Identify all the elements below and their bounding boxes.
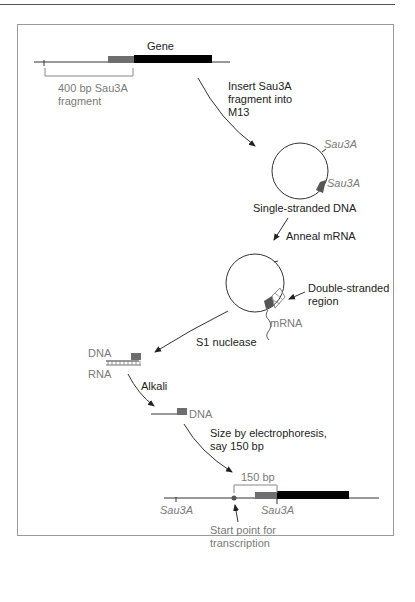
insert-label-line2: fragment into bbox=[228, 93, 292, 106]
sau3a-right-label: Sau3A bbox=[261, 504, 294, 517]
start-point-label-line2: transcription bbox=[210, 537, 270, 550]
rna-label-hybrid: RNA bbox=[88, 368, 111, 381]
gene-map-top bbox=[34, 55, 230, 76]
single-stranded-dna-label: Single-stranded DNA bbox=[253, 202, 356, 215]
sau3a-left-label: Sau3A bbox=[160, 504, 193, 517]
sau3a-site-bottom-label: Sau3A bbox=[327, 177, 360, 190]
fragment-label-line1: 400 bp Sau3A bbox=[58, 82, 128, 95]
fragment-label-line2: fragment bbox=[58, 95, 101, 108]
dna-label-single: DNA bbox=[189, 408, 212, 421]
start-point-label-line1: Start point for bbox=[210, 524, 276, 537]
dna-rna-hybrid bbox=[106, 353, 141, 365]
double-stranded-label-line2: region bbox=[308, 295, 339, 308]
insert-label-line3: M13 bbox=[228, 106, 249, 119]
s1-nuclease-label: S1 nuclease bbox=[196, 336, 257, 349]
double-stranded-label-line1: Double-stranded bbox=[308, 282, 389, 295]
anneal-mrna-label: Anneal mRNA bbox=[286, 230, 356, 243]
dna-fragment bbox=[151, 408, 187, 415]
size-electrophoresis-line1: Size by electrophoresis, bbox=[210, 427, 327, 440]
150bp-label: 150 bp bbox=[241, 471, 275, 484]
m13-single-stranded-circle bbox=[272, 143, 328, 199]
alkali-label: Alkali bbox=[141, 380, 167, 393]
size-electrophoresis-line2: say 150 bp bbox=[210, 440, 264, 453]
mrna-label: mRNA bbox=[270, 317, 302, 330]
sau3a-site-top-label: Sau3A bbox=[324, 138, 357, 151]
insert-label-line1: Insert Sau3A bbox=[228, 80, 292, 93]
dna-label-hybrid: DNA bbox=[88, 347, 111, 360]
gene-label: Gene bbox=[147, 40, 174, 53]
